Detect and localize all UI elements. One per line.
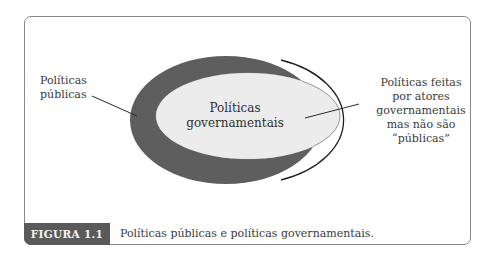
caption-text: Políticas públicas e políticas govername… <box>120 223 374 245</box>
label-line: “públicas” <box>357 132 485 146</box>
left-leader-line <box>92 96 137 116</box>
government-policies-label: Políticas governamentais <box>175 101 295 131</box>
label-line: por atores <box>357 90 485 104</box>
label-line: públicas <box>40 88 87 102</box>
figure-caption: FIGURA 1.1 Políticas públicas e política… <box>24 223 471 245</box>
label-line: Políticas <box>40 74 87 88</box>
government-not-public-label: Políticas feitas por atores governamenta… <box>357 76 485 146</box>
label-line: mas não são <box>357 118 485 132</box>
label-line: governamentais <box>175 116 295 131</box>
figure-number-tag: FIGURA 1.1 <box>24 223 110 245</box>
label-line: Políticas feitas <box>357 76 485 90</box>
public-policies-label: Políticas públicas <box>40 74 87 102</box>
label-line: governamentais <box>357 104 485 118</box>
label-line: Políticas <box>175 101 295 116</box>
